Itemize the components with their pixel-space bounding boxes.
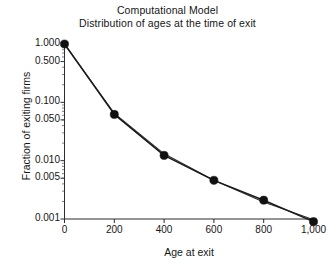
axes [61, 43, 315, 223]
data-point-marker [110, 110, 118, 118]
data-markers [60, 40, 317, 226]
series-line-fitted-exponential-line [65, 44, 314, 220]
plot-canvas [0, 0, 335, 267]
chart-figure: Computational Model Distribution of ages… [0, 0, 335, 267]
data-point-marker [309, 218, 317, 226]
series-line-model-distribution [65, 44, 314, 222]
data-lines [65, 44, 314, 222]
data-point-marker [210, 176, 218, 184]
data-point-marker [160, 151, 168, 159]
data-point-marker [260, 196, 268, 204]
data-point-marker [60, 40, 68, 48]
